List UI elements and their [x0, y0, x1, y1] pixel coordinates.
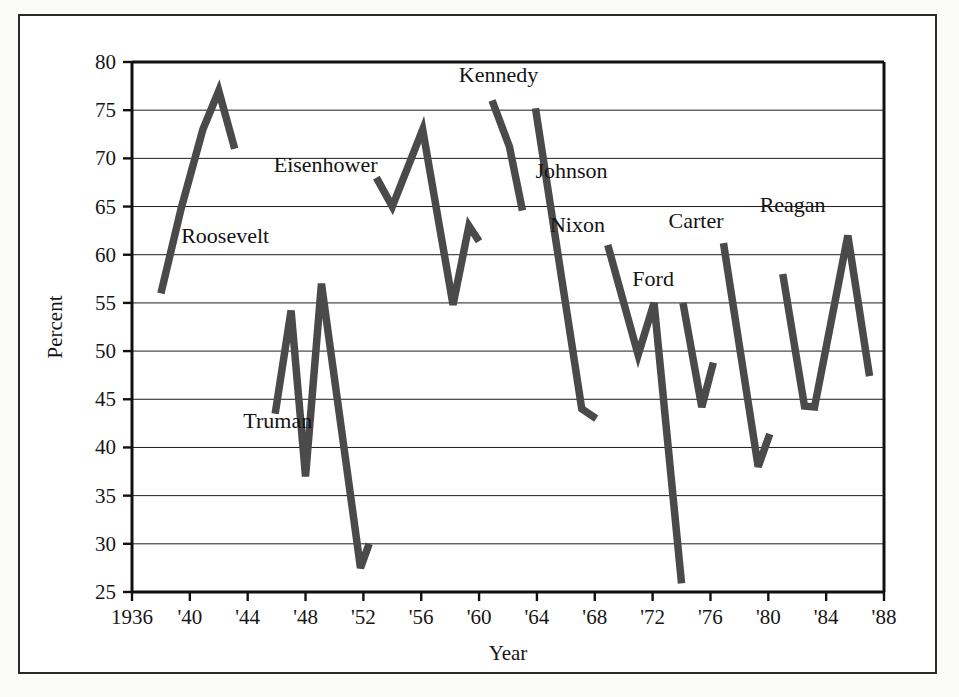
series-label-nixon: Nixon: [550, 212, 605, 237]
figure-container: 253035404550556065707580 1936'40'44'48'5…: [0, 0, 959, 697]
y-tick-labels-group: 253035404550556065707580: [95, 50, 116, 604]
x-tick-label: '64: [525, 605, 550, 629]
series-line-carter: [723, 243, 769, 467]
series-label-reagan: Reagan: [760, 192, 826, 217]
y-tick-label: 50: [95, 339, 116, 363]
x-tick-label: '56: [409, 605, 434, 629]
series-lines-group: [161, 91, 870, 583]
y-tick-label: 55: [95, 291, 116, 315]
series-line-eisenhower: [376, 129, 479, 304]
x-tick-label: '76: [698, 605, 723, 629]
x-axis-title: Year: [489, 641, 528, 665]
series-label-eisenhower: Eisenhower: [274, 152, 379, 177]
y-tick-label: 35: [95, 484, 116, 508]
y-tick-label: 80: [95, 50, 116, 74]
series-line-roosevelt: [161, 91, 235, 293]
x-tick-label: '68: [582, 605, 607, 629]
tickmarks-group: [123, 62, 884, 601]
series-line-kennedy: [492, 101, 522, 211]
x-tick-labels-group: 1936'40'44'48'52'56'60'64'68'72'76'80'84…: [111, 605, 896, 629]
x-tick-label: '44: [235, 605, 260, 629]
line-chart: 253035404550556065707580 1936'40'44'48'5…: [0, 0, 959, 697]
x-tick-label: '60: [467, 605, 492, 629]
y-tick-label: 65: [95, 195, 116, 219]
x-tick-label: 1936: [111, 605, 153, 629]
y-tick-label: 60: [95, 243, 116, 267]
y-tick-label: 30: [95, 532, 116, 556]
series-label-ford: Ford: [632, 266, 674, 291]
y-tick-label: 75: [95, 98, 116, 122]
y-tick-label: 70: [95, 146, 116, 170]
x-tick-label: '84: [814, 605, 839, 629]
y-tick-label: 25: [95, 580, 116, 604]
series-line-ford: [683, 303, 713, 407]
series-line-nixon: [608, 245, 682, 583]
y-tick-label: 45: [95, 387, 116, 411]
series-line-reagan: [783, 235, 870, 407]
x-tick-label: '52: [351, 605, 376, 629]
x-tick-label: '80: [756, 605, 781, 629]
x-tick-label: '88: [872, 605, 897, 629]
series-label-johnson: Johnson: [535, 158, 607, 183]
y-tick-label: 40: [95, 435, 116, 459]
x-tick-label: '48: [293, 605, 318, 629]
plot-wrapper: 253035404550556065707580 1936'40'44'48'5…: [0, 0, 959, 697]
series-line-johnson: [535, 108, 596, 418]
series-label-kennedy: Kennedy: [459, 62, 538, 87]
series-label-carter: Carter: [669, 208, 725, 233]
series-label-roosevelt: Roosevelt: [181, 223, 269, 248]
y-axis-title: Percent: [43, 295, 67, 358]
x-tick-label: '40: [177, 605, 202, 629]
x-tick-label: '72: [640, 605, 665, 629]
series-label-truman: Truman: [243, 408, 312, 433]
